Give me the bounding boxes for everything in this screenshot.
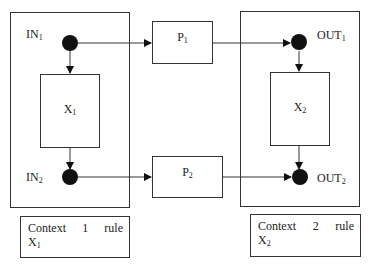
channel-p1-label: P1 [177, 31, 188, 47]
in1-label: IN1 [26, 28, 43, 44]
channel-p2-label: P2 [182, 166, 193, 182]
channel-p2-box: P2 [152, 156, 223, 198]
process-x1-label: X1 [64, 103, 77, 119]
process-x2-box: X2 [270, 72, 330, 146]
in2-label: IN2 [26, 171, 43, 187]
process-x2-label: X2 [294, 101, 307, 117]
out2-label: OUT2 [317, 172, 346, 188]
context1-rule-var: X1 [28, 235, 123, 253]
context2-rule-var: X2 [258, 233, 354, 251]
context2-rule-box: Context 2 rule X2 [250, 214, 361, 257]
context1-rule-box: Context 1 rule X1 [20, 216, 130, 258]
context2-rule-text: Context 2 rule [258, 219, 354, 233]
process-x1-box: X1 [40, 74, 100, 148]
context1-rule-text: Context 1 rule [28, 221, 123, 235]
out1-label: OUT1 [317, 29, 346, 45]
channel-p1-box: P1 [152, 21, 213, 64]
